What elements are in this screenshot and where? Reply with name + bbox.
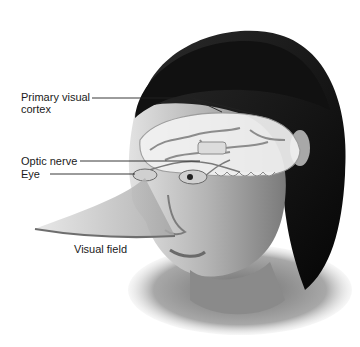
label-optic-nerve: Optic nerve	[21, 155, 77, 167]
label-eye: Eye	[21, 168, 40, 180]
label-primary-visual-cortex: Primary visual cortex	[21, 91, 90, 115]
label-visual-field: Visual field	[74, 243, 127, 255]
pupil	[187, 174, 193, 180]
thalamus	[198, 142, 226, 154]
label-line-2: cortex	[21, 103, 90, 115]
temporal-lobe	[215, 172, 275, 176]
head-illustration	[0, 0, 360, 347]
anatomy-diagram: Primary visual cortex Optic nerve Eye Vi…	[0, 0, 360, 347]
label-line-1: Primary visual	[21, 91, 90, 103]
